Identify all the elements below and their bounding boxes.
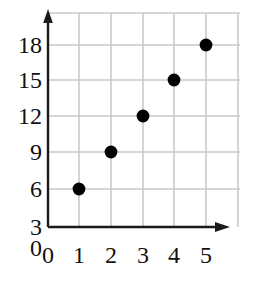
x-tick-label-1: 1 — [73, 243, 85, 267]
data-point — [73, 183, 86, 196]
y-tick-label-9: 9 — [0, 140, 42, 164]
data-point — [137, 110, 150, 123]
y-tick-label-15: 15 — [0, 68, 42, 92]
x-tick-label-2: 2 — [105, 243, 117, 267]
scatter-plot-figure: 18 15 12 9 6 3 0 0 1 2 3 4 5 — [0, 0, 255, 287]
data-point — [105, 146, 118, 159]
y-axis — [43, 9, 53, 227]
x-axis — [48, 222, 230, 232]
grid-horizontal-lines — [48, 13, 240, 189]
x-tick-label-3: 3 — [137, 243, 149, 267]
data-point — [200, 39, 213, 52]
x-tick-label-0: 0 — [42, 243, 54, 267]
y-tick-label-6: 6 — [0, 177, 42, 201]
data-point — [168, 74, 181, 87]
x-tick-label-4: 4 — [168, 243, 180, 267]
y-tick-label-12: 12 — [0, 104, 42, 128]
x-tick-label-5: 5 — [200, 243, 212, 267]
y-tick-label-18: 18 — [0, 33, 42, 57]
y-tick-label-0: 0 — [0, 236, 42, 260]
